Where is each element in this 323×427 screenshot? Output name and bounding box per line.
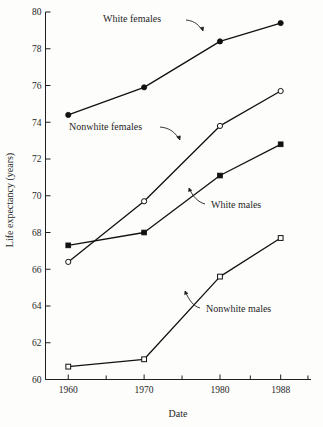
x-axis-title: Date bbox=[169, 408, 188, 419]
life-expectancy-chart-figure: 6062646668707274767880 1960197019801988 … bbox=[0, 0, 323, 427]
y-tick-label: 80 bbox=[32, 7, 42, 17]
data-point-nonwhite-males bbox=[142, 357, 147, 362]
series-line-nonwhite-females bbox=[68, 91, 280, 262]
data-point-white-females bbox=[66, 112, 71, 117]
y-tick-label: 78 bbox=[32, 44, 42, 54]
series-label-nonwhite-males: Nonwhite males bbox=[206, 303, 271, 314]
annotation-layer: White femalesNonwhite femalesWhite males… bbox=[69, 13, 271, 314]
series-label-white-males: White males bbox=[211, 199, 261, 210]
data-point-nonwhite-males bbox=[218, 274, 223, 279]
y-axis-ticks: 6062646668707274767880 bbox=[32, 7, 51, 385]
chart-canvas: 6062646668707274767880 1960197019801988 … bbox=[0, 0, 323, 427]
data-point-nonwhite-males bbox=[66, 364, 71, 369]
x-tick-label: 1970 bbox=[135, 385, 154, 395]
leader-line-white-females bbox=[186, 20, 203, 31]
leader-line-nonwhite-females bbox=[160, 127, 180, 140]
series-layer bbox=[66, 20, 284, 369]
y-tick-label: 64 bbox=[32, 301, 42, 311]
data-point-white-females bbox=[217, 39, 222, 44]
data-point-nonwhite-females bbox=[278, 88, 283, 93]
x-tick-label: 1988 bbox=[271, 385, 290, 395]
leader-arrowhead bbox=[188, 188, 192, 192]
x-tick-label: 1980 bbox=[210, 385, 229, 395]
y-tick-label: 70 bbox=[32, 191, 42, 201]
data-point-white-males bbox=[66, 243, 71, 248]
data-point-white-males bbox=[218, 173, 223, 178]
y-tick-label: 74 bbox=[32, 118, 42, 128]
data-point-white-females bbox=[278, 20, 283, 25]
data-point-nonwhite-females bbox=[142, 199, 147, 204]
y-tick-label: 66 bbox=[32, 265, 42, 275]
series-line-white-males bbox=[68, 144, 280, 245]
leader-arrowhead bbox=[185, 291, 189, 295]
data-point-nonwhite-females bbox=[217, 123, 222, 128]
data-point-nonwhite-males bbox=[278, 236, 283, 241]
leader-arrowhead bbox=[177, 136, 181, 140]
data-point-white-males bbox=[278, 142, 283, 147]
y-tick-label: 68 bbox=[32, 228, 42, 238]
data-point-white-males bbox=[142, 230, 147, 235]
y-tick-label: 60 bbox=[32, 375, 42, 385]
x-axis-ticks: 1960197019801988 bbox=[59, 375, 308, 395]
y-tick-label: 62 bbox=[32, 338, 42, 348]
data-point-nonwhite-females bbox=[66, 259, 71, 264]
x-tick-label: 1960 bbox=[59, 385, 78, 395]
y-tick-label: 76 bbox=[32, 81, 42, 91]
y-axis-title: Life expectancy (years) bbox=[4, 153, 16, 247]
series-line-white-females bbox=[68, 23, 280, 115]
series-label-white-females: White females bbox=[103, 13, 161, 24]
series-label-nonwhite-females: Nonwhite females bbox=[69, 121, 142, 132]
y-tick-label: 72 bbox=[32, 154, 42, 164]
data-point-white-females bbox=[142, 85, 147, 90]
